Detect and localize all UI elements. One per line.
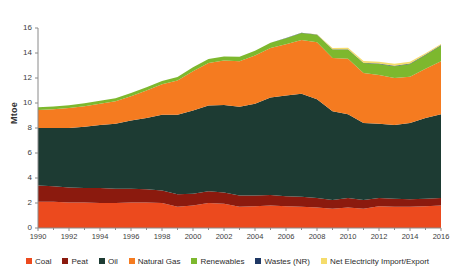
legend-label: Natural Gas [138,257,181,266]
x-tick-label: 2016 [424,233,454,241]
legend-swatch-icon [255,258,261,264]
legend-swatch-icon [129,258,135,264]
x-tick-label: 2012 [362,233,396,241]
x-tick-label: 2010 [331,233,365,241]
legend-item[interactable]: Renewables [191,257,244,266]
x-tick-label: 2006 [269,233,303,241]
legend-label: Peat [71,257,87,266]
legend-item[interactable]: Oil [99,257,118,266]
legend-swatch-icon [321,258,327,264]
legend-swatch-icon [26,258,32,264]
legend-label: Coal [35,257,51,266]
x-tick-label: 1994 [83,233,117,241]
x-tick-label: 2004 [238,233,272,241]
x-tick-label: 1992 [52,233,86,241]
legend-swatch-icon [191,258,197,264]
legend-item[interactable]: Peat [62,257,87,266]
x-tick-label: 2008 [300,233,334,241]
legend-item[interactable]: Net Electricity Import/Export [321,257,429,266]
legend-item[interactable]: Natural Gas [129,257,181,266]
legend-item[interactable]: Coal [26,257,51,266]
legend-label: Renewables [200,257,244,266]
chart-legend: CoalPeatOilNatural GasRenewablesWastes (… [0,253,448,269]
x-tick-label: 1990 [21,233,55,241]
legend-label: Wastes (NR) [264,257,309,266]
x-tick-label: 2002 [207,233,241,241]
legend-swatch-icon [99,258,105,264]
legend-item[interactable]: Wastes (NR) [255,257,309,266]
x-tick-label: 2014 [393,233,427,241]
legend-label: Oil [108,257,118,266]
legend-swatch-icon [62,258,68,264]
x-tick-label: 1998 [145,233,179,241]
x-tick-label: 1996 [114,233,148,241]
x-tick-label: 2000 [176,233,210,241]
legend-label: Net Electricity Import/Export [330,257,429,266]
